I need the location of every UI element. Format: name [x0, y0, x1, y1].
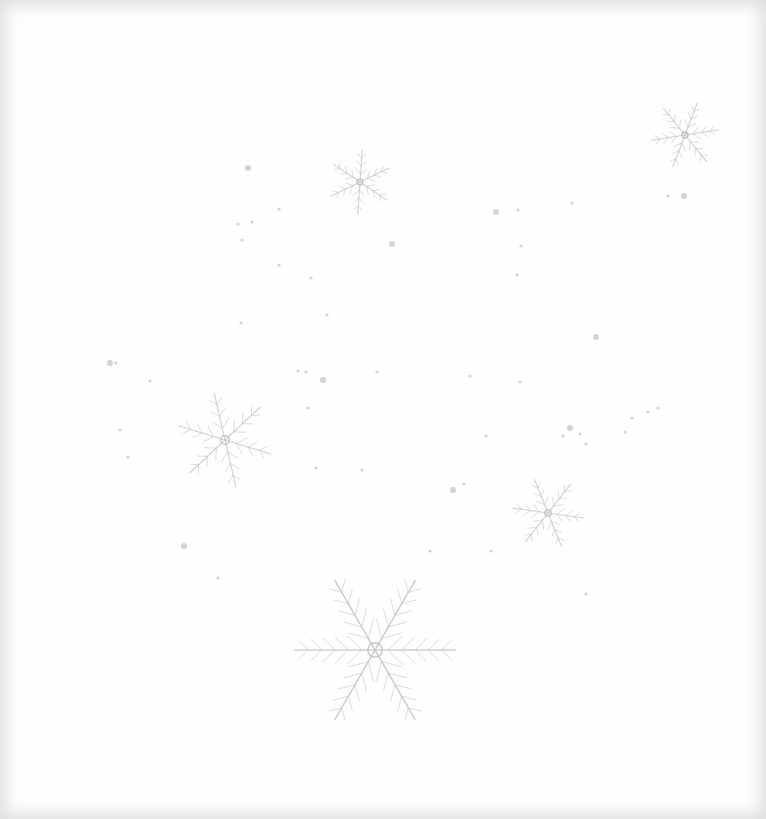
left-crystal-icon: [179, 393, 271, 487]
top-right-crystal-icon: [651, 103, 718, 166]
large-crystal-icon: [295, 580, 455, 721]
crystal-layer: [0, 0, 766, 819]
upper-middle-crystal-icon: [331, 150, 389, 214]
specks: [107, 165, 687, 596]
snowflake-image: [0, 0, 766, 819]
right-crystal-icon: [512, 480, 583, 547]
